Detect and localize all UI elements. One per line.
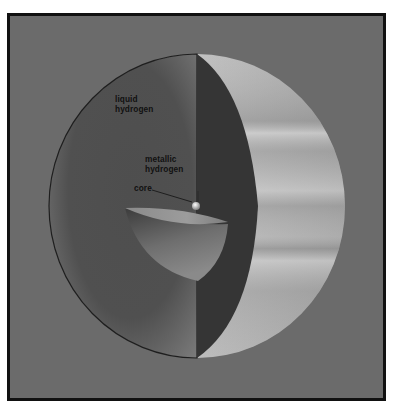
label-line: hydrogen <box>145 164 183 174</box>
label-liquid-hydrogen: liquid hydrogen <box>115 94 153 114</box>
label-core: core <box>134 183 152 193</box>
core-sphere <box>192 202 200 210</box>
label-metallic-hydrogen: metallic hydrogen <box>145 154 183 174</box>
label-line: hydrogen <box>115 104 153 114</box>
label-line: metallic <box>145 154 183 164</box>
label-line: liquid <box>115 94 153 104</box>
planet-cutaway-illustration <box>0 0 393 413</box>
label-line: core <box>134 183 152 193</box>
